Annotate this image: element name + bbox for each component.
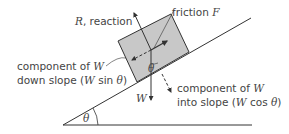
into-slope-label-line1: component of W [177,82,265,94]
down-slope-label-line2: down slope (W sin θ) [17,74,127,86]
into-slope-label-line2: into slope (W cos θ) [177,96,281,108]
weight-label: W [136,92,148,104]
inclined-plane-diagram: θ θ R, reaction friction F component of … [0,0,289,134]
into-slope-component-arrow [162,74,171,92]
reaction-label: R, reaction [74,15,132,27]
friction-label: friction F [172,6,220,18]
down-slope-leader [106,58,126,66]
base-angle-label: θ [83,112,90,124]
base-angle-arc [93,108,98,125]
down-slope-label-line1: component of W [17,60,105,72]
box-angle-label: θ [148,62,155,74]
